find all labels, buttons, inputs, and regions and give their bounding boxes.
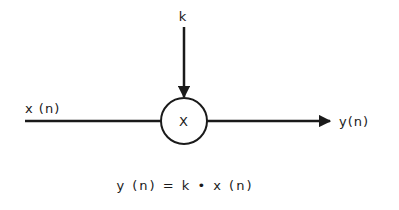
gain-label: k bbox=[179, 9, 188, 24]
output-label: y(n) bbox=[339, 114, 369, 129]
equation: y (n) = k • x (n) bbox=[116, 178, 253, 193]
multiplier-diagram: k x (n) X y(n) y (n) = k • x (n) bbox=[0, 0, 399, 210]
multiply-symbol: X bbox=[179, 114, 189, 129]
input-label: x (n) bbox=[25, 101, 60, 116]
